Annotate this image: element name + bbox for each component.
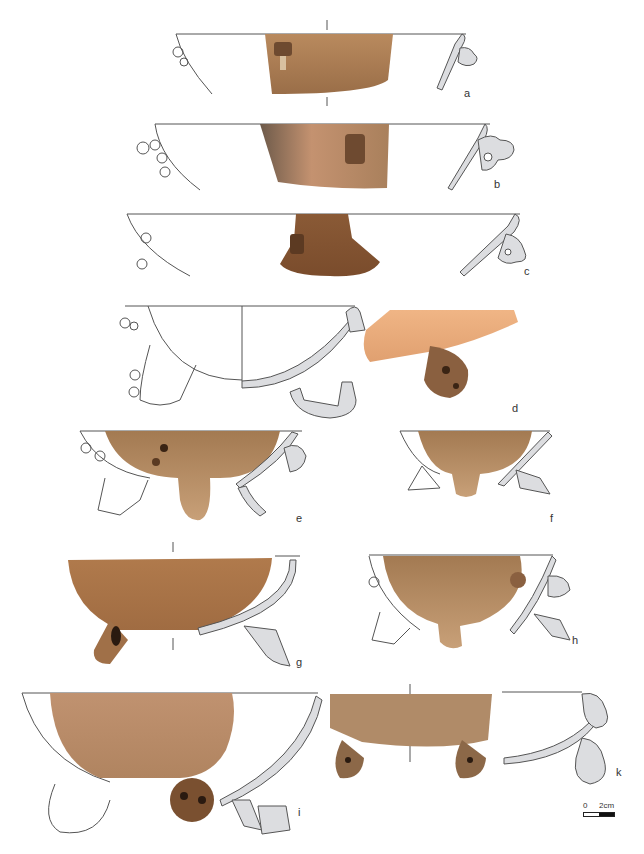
- label-d: d: [512, 402, 518, 414]
- vessel-e: [80, 431, 306, 520]
- pottery-plate: [0, 0, 644, 854]
- label-g: g: [296, 656, 302, 668]
- vessel-d: [120, 306, 518, 418]
- label-a: a: [464, 87, 470, 99]
- label-b: b: [494, 178, 500, 190]
- label-e: e: [296, 512, 302, 524]
- vessel-k: [330, 684, 608, 784]
- scale-start-label: 0: [583, 801, 587, 810]
- label-i: i: [298, 806, 300, 818]
- scale-bar: 0 2cm: [583, 801, 629, 821]
- label-k: k: [616, 766, 622, 778]
- vessel-c: [127, 214, 526, 276]
- vessel-h: [369, 555, 570, 648]
- vessel-g: [68, 542, 300, 666]
- label-f: f: [550, 512, 553, 524]
- scale-end-label: 2cm: [599, 801, 614, 810]
- vessel-b: [137, 124, 514, 190]
- vessel-a: [173, 20, 477, 106]
- scale-bar-graphic: [583, 812, 615, 817]
- label-h: h: [572, 634, 578, 646]
- label-c: c: [524, 265, 530, 277]
- vessel-i: [22, 693, 322, 834]
- vessel-f: [400, 431, 552, 497]
